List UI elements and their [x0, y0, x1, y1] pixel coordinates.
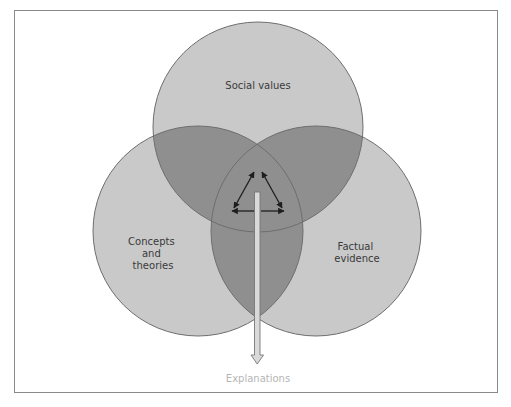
label-explanations: Explanations: [226, 373, 290, 384]
venn-diagram: Social values Concepts and theories Fact…: [0, 0, 511, 407]
label-factual-evidence: Factual evidence: [334, 241, 379, 264]
label-social-values: Social values: [225, 80, 290, 91]
